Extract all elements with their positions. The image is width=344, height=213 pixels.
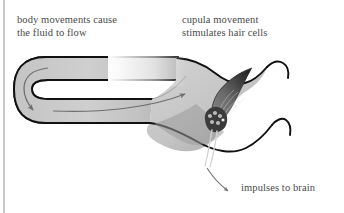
figure-canvas: body movements cause the fluid to flow c…: [0, 0, 344, 213]
canal-cutoff-fade: [108, 50, 186, 86]
arrow-impulses: [207, 168, 228, 191]
hair-cells: [205, 107, 227, 132]
label-fluid-flow: body movements cause the fluid to flow: [17, 14, 117, 39]
label-impulses-to-brain: impulses to brain: [241, 182, 315, 195]
label-cupula-movement: cupula movement stimulates hair cells: [182, 14, 268, 39]
